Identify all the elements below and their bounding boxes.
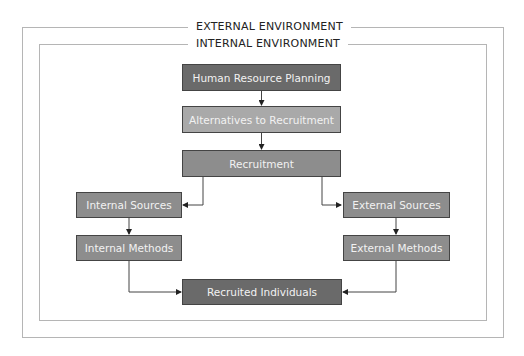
node-internal-methods: Internal Methods <box>76 235 182 261</box>
node-external-methods: External Methods <box>343 235 450 261</box>
node-external-sources: External Sources <box>343 192 450 218</box>
node-human-resource-planning: Human Resource Planning <box>182 64 341 91</box>
node-internal-sources: Internal Sources <box>76 192 182 218</box>
node-recruited-individuals: Recruited Individuals <box>182 279 342 305</box>
node-recruitment: Recruitment <box>182 150 341 177</box>
node-alternatives-to-recruitment: Alternatives to Recruitment <box>182 106 341 133</box>
